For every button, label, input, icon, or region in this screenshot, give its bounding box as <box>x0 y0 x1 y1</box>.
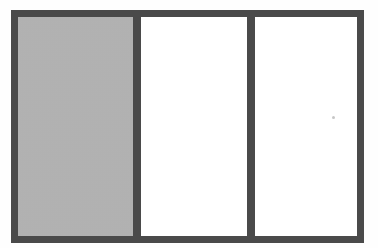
partitioned-bar-diagram <box>11 10 364 243</box>
bar-cell-empty-3 <box>255 17 357 236</box>
scanned-page-background: Partitioned rectangle diagram 1/3 <box>0 0 378 248</box>
scan-speck-artifact <box>332 116 335 119</box>
bar-cell-1-label <box>17 16 18 17</box>
bar-cell-empty-2 <box>141 17 247 236</box>
bar-cell-shaded-1 <box>18 17 133 236</box>
bar-cell-3-label <box>254 16 255 17</box>
cell-divider-2 <box>247 17 255 236</box>
bar-cell-2-label <box>140 16 141 17</box>
cell-divider-1 <box>133 17 141 236</box>
